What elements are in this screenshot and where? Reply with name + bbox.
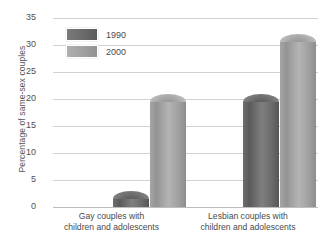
y-tick-label-30: 30 bbox=[10, 39, 36, 49]
y-tick-label-35: 35 bbox=[10, 12, 36, 22]
bar-body bbox=[150, 102, 186, 207]
legend: 1990 2000 bbox=[66, 28, 126, 62]
y-tick-label-0: 0 bbox=[10, 201, 36, 211]
bar-2000-lesbian-couples[interactable] bbox=[280, 34, 316, 207]
bar-body bbox=[243, 102, 279, 207]
y-tick-label-5: 5 bbox=[10, 174, 36, 184]
category-label-gay-couples: Gay couples with children and adolescent… bbox=[49, 211, 174, 232]
bar-2000-gay-couples[interactable] bbox=[150, 94, 186, 207]
y-tick-label-25: 25 bbox=[10, 66, 36, 76]
gridline-0 bbox=[53, 207, 318, 208]
y-tick-label-15: 15 bbox=[10, 120, 36, 130]
category-label-lesbian-couples: Lesbian couples with children and adoles… bbox=[178, 211, 318, 232]
category-label-line2: children and adolescents bbox=[178, 222, 318, 233]
legend-item-2000[interactable]: 2000 bbox=[66, 45, 126, 58]
bar-chart: Percentage of same-sex couples 35 30 25 … bbox=[0, 0, 330, 250]
legend-swatch-2000 bbox=[66, 45, 98, 58]
category-label-line1: Gay couples with bbox=[49, 211, 174, 222]
legend-item-1990[interactable]: 1990 bbox=[66, 28, 126, 41]
y-tick-label-20: 20 bbox=[10, 93, 36, 103]
bar-body bbox=[113, 199, 149, 207]
y-tick-label-10: 10 bbox=[10, 147, 36, 157]
bar-1990-lesbian-couples[interactable] bbox=[243, 94, 279, 207]
legend-label-2000: 2000 bbox=[106, 47, 126, 57]
legend-swatch-1990 bbox=[66, 28, 98, 41]
legend-label-1990: 1990 bbox=[106, 30, 126, 40]
category-label-line1: Lesbian couples with bbox=[178, 211, 318, 222]
bar-body bbox=[280, 42, 316, 207]
bar-1990-gay-couples[interactable] bbox=[113, 191, 149, 207]
category-label-line2: children and adolescents bbox=[49, 222, 174, 233]
